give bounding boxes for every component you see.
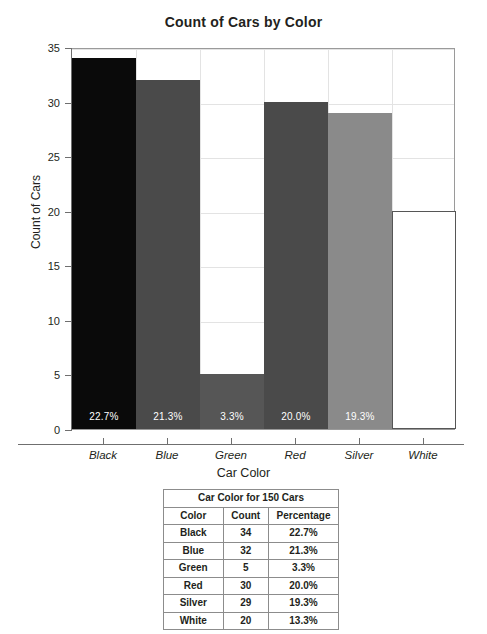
chart-title: Count of Cars by Color: [0, 14, 487, 30]
table-column-header-color: Color: [164, 507, 224, 525]
y-axis-tick: [65, 375, 71, 376]
y-axis-tick: [65, 157, 71, 158]
table-cell: Silver: [164, 595, 224, 613]
table-row: Silver2919.3%: [164, 595, 339, 613]
bar-red: 20.0%: [264, 102, 328, 429]
bar-white: 13.3%: [392, 211, 456, 429]
x-axis-tick: [231, 438, 232, 444]
y-axis-line: [71, 48, 72, 431]
bar-chart-figure: Count of Cars by Color 22.7%21.3%3.3%20.…: [0, 0, 487, 487]
y-axis-tick: [65, 321, 71, 322]
x-axis-tick-label-white: White: [383, 449, 463, 461]
table-row: Black3422.7%: [164, 525, 339, 543]
table-row: Green53.3%: [164, 560, 339, 578]
bars-layer: 22.7%21.3%3.3%20.0%19.3%13.3%: [72, 49, 454, 429]
bar-percentage-label: 21.3%: [137, 411, 199, 422]
table-row: White2013.3%: [164, 612, 339, 630]
x-axis-tick: [295, 438, 296, 444]
table-cell: Green: [164, 560, 224, 578]
car-color-table: Car Color for 150 Cars ColorCountPercent…: [163, 489, 339, 630]
table-title: Car Color for 150 Cars: [164, 490, 339, 508]
data-table-container: Car Color for 150 Cars ColorCountPercent…: [163, 489, 339, 630]
bar-silver: 19.3%: [328, 113, 392, 430]
bar-percentage-label: 13.3%: [393, 411, 455, 422]
table-cell: White: [164, 612, 224, 630]
table-cell: 5: [223, 560, 269, 578]
table-cell: 22.7%: [269, 525, 339, 543]
table-cell: 21.3%: [269, 542, 339, 560]
x-axis-tick: [167, 438, 168, 444]
x-axis-tick: [103, 438, 104, 444]
table-cell: 19.3%: [269, 595, 339, 613]
bar-percentage-label: 20.0%: [265, 411, 327, 422]
x-axis-line: [18, 444, 464, 445]
table-cell: 29: [223, 595, 269, 613]
table-cell: 32: [223, 542, 269, 560]
x-axis-title: Car Color: [0, 466, 487, 480]
y-axis-tick-label: 30: [20, 97, 60, 109]
x-axis-tick: [423, 438, 424, 444]
y-axis-title: Count of Cars: [29, 152, 43, 272]
table-body: Black3422.7%Blue3221.3%Green53.3%Red3020…: [164, 525, 339, 630]
table-row: Blue3221.3%: [164, 542, 339, 560]
table-cell: 30: [223, 577, 269, 595]
y-axis-tick: [65, 48, 71, 49]
table-cell: Blue: [164, 542, 224, 560]
x-axis-tick: [359, 438, 360, 444]
y-axis-tick: [65, 430, 71, 431]
table-cell: 3.3%: [269, 560, 339, 578]
table-column-header-count: Count: [223, 507, 269, 525]
bar-percentage-label: 22.7%: [73, 411, 135, 422]
table-cell: Black: [164, 525, 224, 543]
table-column-header-percentage: Percentage: [269, 507, 339, 525]
bar-blue: 21.3%: [136, 80, 200, 429]
y-axis-tick-label: 35: [20, 42, 60, 54]
bar-percentage-label: 3.3%: [201, 411, 263, 422]
table-row: Red3020.0%: [164, 577, 339, 595]
bar-percentage-label: 19.3%: [329, 411, 391, 422]
table-head: Car Color for 150 Cars ColorCountPercent…: [164, 490, 339, 525]
y-axis-tick-label: 10: [20, 315, 60, 327]
bar-green: 3.3%: [200, 374, 264, 429]
y-axis-tick: [65, 266, 71, 267]
table-cell: 20: [223, 612, 269, 630]
table-title-row: Car Color for 150 Cars: [164, 490, 339, 508]
y-axis-tick: [65, 212, 71, 213]
table-cell: Red: [164, 577, 224, 595]
bar-black: 22.7%: [72, 58, 136, 429]
y-axis-tick-label: 5: [20, 369, 60, 381]
plot-area: 22.7%21.3%3.3%20.0%19.3%13.3%: [71, 48, 455, 430]
table-header-row: ColorCountPercentage: [164, 507, 339, 525]
table-cell: 34: [223, 525, 269, 543]
y-axis-tick: [65, 103, 71, 104]
table-cell: 13.3%: [269, 612, 339, 630]
table-cell: 20.0%: [269, 577, 339, 595]
y-axis-tick-label: 0: [20, 424, 60, 436]
